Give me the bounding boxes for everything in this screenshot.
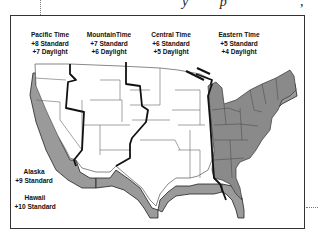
label-pacific-time: Pacific Time +8 Standard +7 Daylight — [25, 31, 74, 57]
eastern-time-zone-region — [208, 70, 296, 200]
label-central-time: Central Time +6 Standard +5 Daylight — [146, 31, 197, 57]
zone-daylight-offset: +4 Daylight — [214, 48, 265, 57]
zone-standard-offset: +9 Standard — [14, 177, 53, 186]
label-mountain-time: MountainTime +7 Standard +6 Daylight — [84, 31, 135, 57]
michigan-arm — [197, 68, 210, 74]
zone-standard-offset: +10 Standard — [15, 203, 56, 212]
label-alaska: Alaska +9 Standard — [14, 168, 53, 185]
label-hawaii: Hawaii +10 Standard — [15, 194, 56, 211]
zone-daylight-offset: +7 Daylight — [25, 48, 74, 57]
zone-daylight-offset: +5 Daylight — [146, 48, 197, 57]
label-eastern-time: Eastern Time +5 Standard +4 Daylight — [214, 31, 265, 57]
zone-daylight-offset: +6 Daylight — [84, 48, 135, 57]
